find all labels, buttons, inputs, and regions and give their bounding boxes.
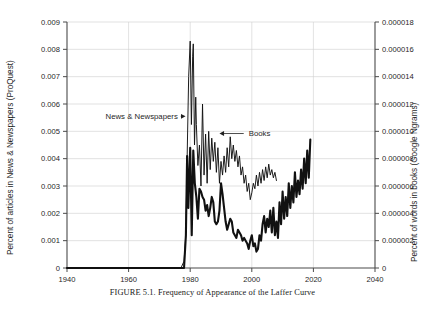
- x-tick-label: 2040: [367, 275, 384, 284]
- left-tick-label: 0.006: [41, 100, 60, 109]
- x-tick-label: 1960: [120, 275, 137, 284]
- x-tick-label: 2020: [305, 275, 322, 284]
- figure-caption-lead: FIGURE 5.1.: [110, 288, 156, 297]
- x-tick-label: 1980: [182, 275, 199, 284]
- right-axis-title: Percent of words in books (Google Ngrams…: [410, 102, 419, 262]
- annotation-arrowhead: [219, 131, 224, 136]
- left-tick-label: 0.003: [41, 182, 60, 191]
- right-axis-tick-labels: 00.0000020.0000040.0000060.0000080.00001…: [382, 18, 414, 273]
- data-series: [67, 41, 310, 268]
- right-tick-label: 0: [382, 264, 386, 273]
- annotation-arrowhead: [181, 114, 186, 119]
- right-tick-label: 0.000002: [382, 236, 414, 245]
- left-tick-label: 0.002: [41, 209, 60, 218]
- left-tick-label: 0.004: [41, 154, 60, 163]
- left-tick-label: 0.008: [41, 45, 60, 54]
- right-tick-label: 0.000014: [382, 72, 414, 81]
- right-tick-label: 0.000008: [382, 154, 414, 163]
- figure-caption-text: Frequency of Appearance of the Laffer Cu…: [156, 288, 315, 297]
- left-tick-label: 0: [56, 264, 60, 273]
- right-tick-label: 0.000010: [382, 127, 414, 136]
- x-axis-tick-labels: 194019601980200020202040: [59, 275, 384, 284]
- figure-caption: FIGURE 5.1. Frequency of Appearance of t…: [0, 288, 425, 297]
- left-axis-title: Percent of articles in News & Newspapers…: [6, 60, 15, 255]
- right-tick-label: 0.000016: [382, 45, 414, 54]
- grid-lines: [67, 22, 375, 268]
- plot-frame: [67, 22, 375, 268]
- right-tick-label: 0.000012: [382, 100, 414, 109]
- annotation-label: News & Newspapers: [106, 112, 178, 121]
- x-tick-label: 2000: [243, 275, 260, 284]
- laffer-curve-chart: 00.0010.0020.0030.0040.0050.0060.0070.00…: [0, 0, 425, 310]
- left-axis-tick-labels: 00.0010.0020.0030.0040.0050.0060.0070.00…: [41, 18, 60, 273]
- left-tick-label: 0.009: [41, 18, 60, 27]
- annotation-label: Books: [249, 129, 271, 138]
- series-line-books: [67, 41, 276, 268]
- left-tick-label: 0.007: [41, 72, 60, 81]
- x-tick-label: 1940: [59, 275, 76, 284]
- left-tick-label: 0.001: [41, 236, 60, 245]
- right-tick-label: 0.000004: [382, 209, 414, 218]
- left-tick-label: 0.005: [41, 127, 60, 136]
- right-tick-label: 0.000006: [382, 182, 414, 191]
- figure-container: 00.0010.0020.0030.0040.0050.0060.0070.00…: [0, 0, 425, 310]
- axis-tick-marks: [63, 22, 379, 272]
- right-tick-label: 0.000018: [382, 18, 414, 27]
